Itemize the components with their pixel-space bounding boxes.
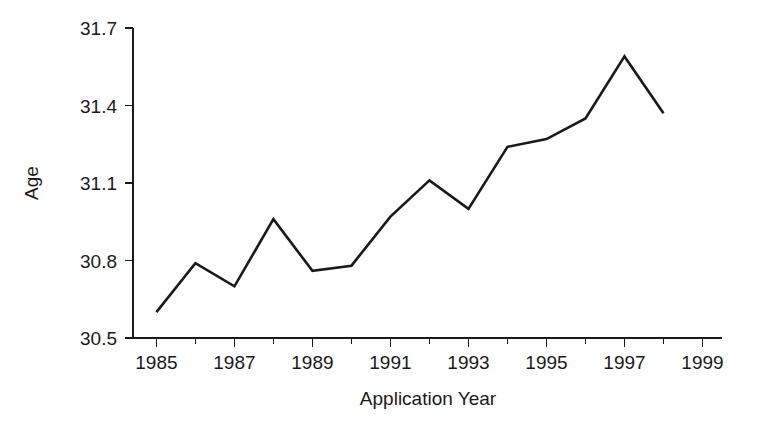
x-axis-title: Application Year [360,388,497,409]
y-axis-tick-label: 31.7 [80,18,117,39]
y-axis-tick-labels: 30.530.831.131.431.7 [80,18,117,349]
x-axis-tick-label: 1985 [135,352,177,373]
y-axis-tick-label: 30.5 [80,328,117,349]
y-axis-tick-label: 31.4 [80,96,117,117]
y-axis-title: Age [21,166,42,200]
x-axis-tick-label: 1989 [291,352,333,373]
y-axis-ticks [125,28,133,338]
x-axis-tick-label: 1993 [447,352,489,373]
y-axis-tick-label: 31.1 [80,173,117,194]
x-axis-tick-label: 1987 [213,352,255,373]
y-axis-tick-label: 30.8 [80,251,117,272]
x-axis-tick-label: 1999 [681,352,723,373]
chart-canvas: 30.530.831.131.431.7 1985198719891991199… [0,0,762,423]
x-axis-tick-label: 1991 [369,352,411,373]
x-axis-tick-labels: 19851987198919911993199519971999 [135,352,723,373]
x-axis-tick-label: 1995 [525,352,567,373]
data-series-line [156,56,663,312]
x-axis-minor-ticks [195,338,663,344]
x-axis-tick-label: 1997 [603,352,645,373]
line-chart: 30.530.831.131.431.7 1985198719891991199… [0,0,762,423]
